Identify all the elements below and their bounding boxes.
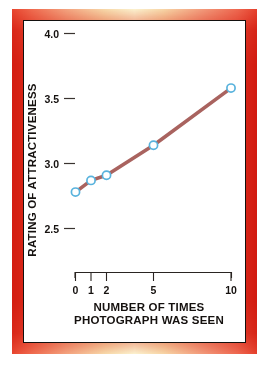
line-chart-plot: 4.0 3.5 3.0 2.5 RATING OF ATTRACTIVENESS… xyxy=(23,20,246,343)
y-tick-label-3-5: 3.5 xyxy=(44,93,59,105)
data-point-x-10 xyxy=(227,84,235,92)
x-axis-rule xyxy=(75,273,232,282)
y-axis-ticks xyxy=(64,34,75,229)
x-tick-label-10: 10 xyxy=(225,284,237,296)
y-axis-tick-labels: 4.0 3.5 3.0 2.5 xyxy=(44,28,59,235)
data-series-attractiveness xyxy=(71,84,235,196)
x-tick-label-5: 5 xyxy=(151,284,157,296)
chart-figure: 4.0 3.5 3.0 2.5 RATING OF ATTRACTIVENESS… xyxy=(0,0,269,368)
y-axis-title: RATING OF ATTRACTIVENESS xyxy=(26,83,38,256)
x-tick-label-0: 0 xyxy=(73,284,79,296)
series-line-path xyxy=(76,88,232,192)
data-point-x-0 xyxy=(71,188,79,196)
x-axis-title: NUMBER OF TIMES PHOTOGRAPH WAS SEEN xyxy=(74,301,224,326)
y-tick-label-3-0: 3.0 xyxy=(44,158,59,170)
data-point-x-1 xyxy=(87,176,95,184)
data-point-x-5 xyxy=(149,141,157,149)
x-axis-title-line-1: NUMBER OF TIMES xyxy=(94,301,205,313)
x-axis-title-line-2: PHOTOGRAPH WAS SEEN xyxy=(74,314,224,326)
y-tick-label-2-5: 2.5 xyxy=(44,223,59,235)
x-tick-label-2: 2 xyxy=(104,284,110,296)
x-axis-tick-labels: 0 1 2 5 10 xyxy=(73,284,237,296)
y-tick-label-4-0: 4.0 xyxy=(44,28,59,40)
x-tick-label-1: 1 xyxy=(88,284,94,296)
data-point-x-2 xyxy=(102,171,110,179)
